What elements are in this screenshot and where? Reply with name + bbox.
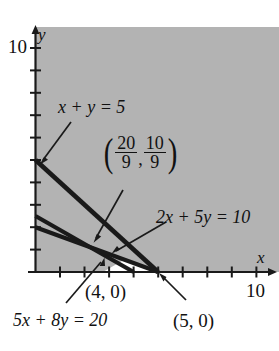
x-axis-name: x <box>257 249 265 266</box>
x-tick-label-10: 10 <box>246 281 265 300</box>
label-point-5-0: (5, 0) <box>173 311 214 330</box>
label-line-2x-plus-5y-10: 2x + 5y = 10 <box>156 208 250 226</box>
vertex-y-fraction: 109 <box>144 134 166 172</box>
label-point-4-0: (4, 0) <box>85 282 126 301</box>
graph-figure <box>0 0 279 351</box>
vertex-open-paren: ( <box>104 136 114 170</box>
y-tick-label-10: 10 <box>8 37 27 56</box>
leader-point-5-0 <box>163 277 186 300</box>
label-line-x-plus-y-5: x + y = 5 <box>58 98 125 116</box>
vertex-close-paren: ) <box>168 136 178 170</box>
label-vertex-fraction: (209,109) <box>102 134 179 172</box>
vertex-x-fraction: 209 <box>115 134 137 172</box>
label-line-5x-plus-8y-20: 5x + 8y = 20 <box>13 311 107 329</box>
y-axis-name: y <box>38 26 46 43</box>
